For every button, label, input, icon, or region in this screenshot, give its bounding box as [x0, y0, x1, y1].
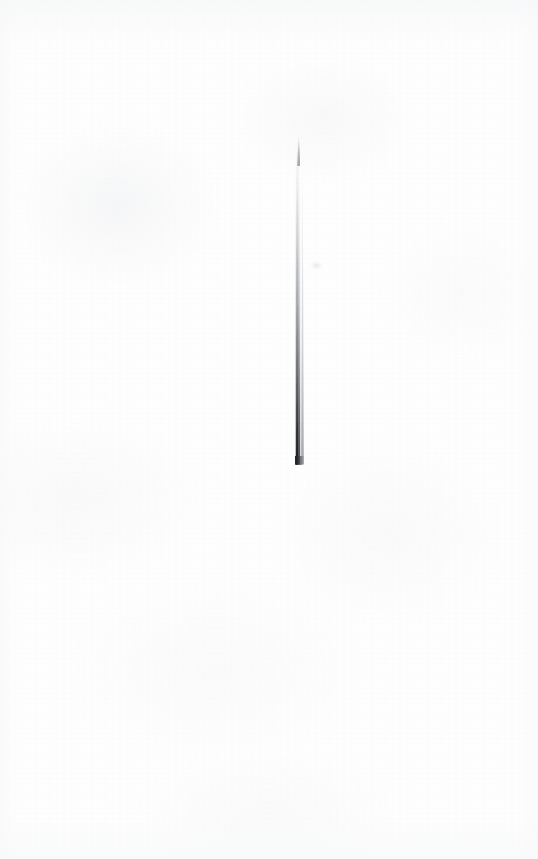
- needle-object: [288, 138, 314, 464]
- needle-right-edge: [301, 148, 303, 464]
- needle-blunt-end: [295, 456, 304, 465]
- needle-midtone-body: [298, 144, 301, 464]
- paper-edge-vignette: [0, 0, 538, 859]
- photo-canvas: [0, 0, 538, 859]
